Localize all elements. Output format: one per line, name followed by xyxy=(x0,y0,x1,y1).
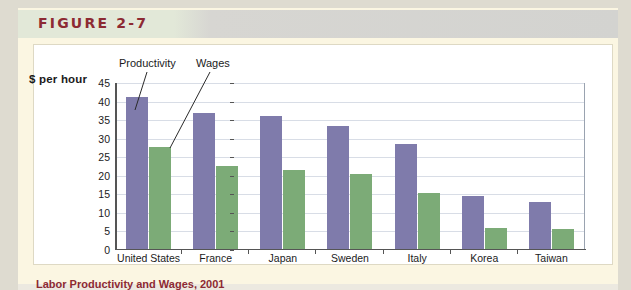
bar-wages xyxy=(418,193,440,250)
x-axis-label: United States xyxy=(115,252,182,264)
y-tick-label: 45 xyxy=(98,77,110,89)
y-axis-title: $ per hour xyxy=(29,73,87,85)
bar-group xyxy=(451,83,518,250)
y-tick-mark xyxy=(230,194,234,195)
y-tick-mark xyxy=(230,231,234,232)
y-tick-label: 30 xyxy=(98,133,110,145)
bar-wages xyxy=(283,170,305,250)
page-left-edge xyxy=(0,0,18,290)
bar-group xyxy=(518,83,585,250)
figure-page: FIGURE 2-7 $ per hour 051015202530354045… xyxy=(0,0,631,290)
bar-groups xyxy=(115,83,585,250)
x-axis-label: Sweden xyxy=(316,252,383,264)
x-axis-category-labels: United StatesFranceJapanSwedenItalyKorea… xyxy=(115,252,585,264)
y-tick-label: 10 xyxy=(98,207,110,219)
bar-group xyxy=(384,83,451,250)
y-tick-mark xyxy=(230,120,234,121)
y-tick-label: 0 xyxy=(104,244,110,256)
bar-group xyxy=(115,83,182,250)
annotation-productivity: Productivity xyxy=(119,57,176,69)
bar-wages xyxy=(552,229,574,250)
bar-group xyxy=(182,83,249,250)
y-tick-mark xyxy=(230,83,234,84)
x-axis-label: France xyxy=(182,252,249,264)
y-tick-mark xyxy=(230,213,234,214)
bar-productivity xyxy=(395,144,417,250)
bar-productivity xyxy=(462,196,484,250)
bar-group xyxy=(316,83,383,250)
y-tick-label: 40 xyxy=(98,96,110,108)
y-axis-tick-labels: 051015202530354045 xyxy=(88,83,110,250)
y-tick-label: 15 xyxy=(98,188,110,200)
y-tick-label: 20 xyxy=(98,170,110,182)
chart-plot-area xyxy=(115,83,585,250)
y-tick-label: 25 xyxy=(98,151,110,163)
bar-productivity xyxy=(327,126,349,250)
page-right-edge xyxy=(618,0,631,290)
y-tick-label: 5 xyxy=(104,225,110,237)
x-axis-label: Korea xyxy=(451,252,518,264)
page-top-edge xyxy=(0,0,631,8)
x-axis-label: Japan xyxy=(249,252,316,264)
y-tick-mark xyxy=(230,102,234,103)
annotation-wages: Wages xyxy=(196,57,230,69)
bar-productivity xyxy=(193,113,215,250)
y-tick-label: 35 xyxy=(98,114,110,126)
figure-caption-text: Labor Productivity and Wages, 2001 xyxy=(36,278,596,290)
bar-productivity xyxy=(260,116,282,250)
y-tick-mark xyxy=(230,176,234,177)
bar-group xyxy=(249,83,316,250)
x-axis-label: Italy xyxy=(384,252,451,264)
y-tick-mark xyxy=(230,139,234,140)
bar-wages xyxy=(216,166,238,250)
bar-productivity xyxy=(529,202,551,250)
bar-wages xyxy=(350,174,372,250)
y-tick-mark xyxy=(230,157,234,158)
bar-wages xyxy=(149,147,171,250)
plot-right-border xyxy=(584,83,585,250)
figure-label: FIGURE 2-7 xyxy=(38,15,148,31)
figure-caption: Labor Productivity and Wages, 2001 xyxy=(36,278,596,290)
y-axis-line xyxy=(115,83,117,250)
bar-wages xyxy=(485,228,507,250)
y-tick-mark xyxy=(230,250,234,251)
x-axis-line xyxy=(115,249,586,251)
bar-productivity xyxy=(126,97,148,250)
x-axis-label: Taiwan xyxy=(518,252,585,264)
